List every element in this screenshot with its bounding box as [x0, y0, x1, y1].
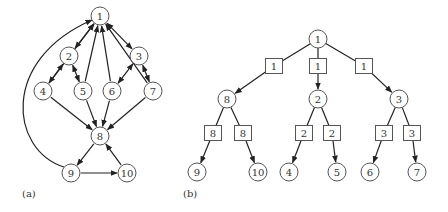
tree-node-6: 6: [361, 163, 379, 181]
tree-node-8: 8: [218, 90, 236, 108]
node-label: 5: [334, 167, 340, 178]
tree-node-5: 5: [328, 163, 346, 181]
node-label: 1: [97, 11, 103, 22]
node-label: 10: [121, 168, 134, 179]
node-label: 6: [109, 86, 115, 97]
graph-node-8: 8: [91, 127, 109, 145]
box-label: 2: [301, 128, 307, 139]
edge-3-7: [143, 65, 150, 81]
graph-node-6: 6: [103, 82, 121, 100]
node-label: 6: [367, 167, 373, 178]
node-label: 8: [97, 131, 103, 142]
tree-box-3: 3: [376, 126, 393, 141]
node-label: 2: [66, 51, 72, 62]
box-label: 2: [329, 128, 335, 139]
tree-box-3: 3: [404, 126, 421, 141]
box-label: 1: [361, 61, 367, 72]
edge-4-8: [51, 97, 92, 130]
edge-1-3: [107, 23, 132, 49]
node-label: 4: [40, 86, 46, 97]
tree-box-1: 1: [310, 59, 327, 74]
box-label: 1: [271, 61, 277, 72]
tree-box-2: 2: [324, 126, 341, 141]
edge-7-8: [108, 97, 146, 129]
node-label: 4: [286, 167, 292, 178]
edge-2-5: [73, 65, 80, 81]
node-label: 7: [414, 167, 420, 178]
node-label: 5: [80, 86, 86, 97]
graph-node-10: 10: [118, 164, 136, 182]
tree-box-1: 1: [266, 59, 283, 74]
tree-node-2: 2: [309, 90, 327, 108]
node-label: 3: [136, 51, 142, 62]
edge-8-9: [77, 144, 94, 165]
panel-a-graph: 12345678910: [23, 7, 162, 182]
box-label: 1: [315, 61, 321, 72]
graph-node-9: 9: [62, 164, 80, 182]
box-label: 8: [240, 128, 246, 139]
edge-10-8: [106, 144, 121, 165]
tree-node-1: 1: [309, 30, 327, 48]
tree-box-8: 8: [205, 126, 222, 141]
panel-b-tree: 11188223318239104567: [188, 30, 426, 181]
graph-node-7: 7: [144, 82, 162, 100]
node-label: 10: [252, 167, 265, 178]
node-label: 8: [224, 94, 230, 105]
graph-node-2: 2: [60, 47, 78, 65]
node-label: 3: [396, 94, 402, 105]
panel-b-label: (b): [183, 188, 197, 199]
graph-node-3: 3: [130, 47, 148, 65]
graph-node-5: 5: [74, 82, 92, 100]
edge-6-8: [103, 101, 110, 127]
box-label: 3: [381, 128, 387, 139]
edge-3-6: [118, 64, 133, 83]
tree-box-8: 8: [235, 126, 252, 141]
graph-node-1: 1: [91, 7, 109, 25]
node-label: 2: [315, 94, 321, 105]
node-label: 7: [150, 86, 156, 97]
panel-a-label: (a): [22, 188, 36, 199]
box-label: 8: [210, 128, 216, 139]
node-label: 9: [68, 168, 74, 179]
edge-5-1: [85, 26, 98, 81]
graph-node-4: 4: [34, 82, 52, 100]
tree-node-4: 4: [280, 163, 298, 181]
node-label: 9: [194, 167, 200, 178]
diagram-canvas: 12345678910 11188223318239104567 (a) (b): [0, 0, 448, 212]
node-label: 1: [315, 34, 321, 45]
tree-node-9: 9: [188, 163, 206, 181]
box-label: 3: [409, 128, 415, 139]
tree-box-2: 2: [296, 126, 313, 141]
tree-node-7: 7: [408, 163, 426, 181]
tree-node-3: 3: [390, 90, 408, 108]
tree-node-10: 10: [249, 163, 267, 181]
edge-5-8: [87, 100, 97, 126]
edge-6-1: [102, 26, 111, 81]
tree-box-1: 1: [356, 59, 373, 74]
